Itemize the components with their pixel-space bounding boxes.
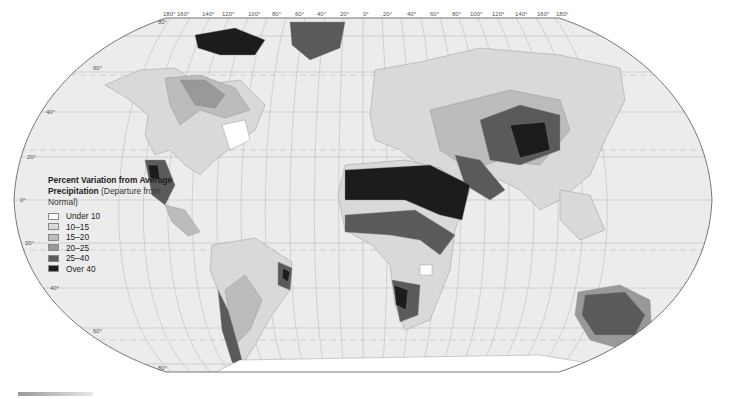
map-legend: Percent Variation from Average Precipita… — [48, 175, 183, 274]
svg-text:20°: 20° — [25, 240, 35, 246]
legend-item-under-10: Under 10 — [48, 211, 183, 222]
svg-text:20°: 20° — [27, 154, 37, 160]
swatch-20-25 — [48, 244, 59, 251]
decorative-gradient-bar — [18, 392, 93, 396]
svg-text:80°: 80° — [158, 365, 168, 371]
svg-text:20°: 20° — [383, 11, 393, 17]
svg-text:60°: 60° — [295, 11, 305, 17]
svg-text:180°: 180° — [556, 11, 569, 17]
legend-item-20-25: 20–25 — [48, 243, 183, 254]
legend-title: Percent Variation from Average Precipita… — [48, 175, 183, 208]
svg-text:160°: 160° — [537, 11, 550, 17]
svg-text:140°: 140° — [515, 11, 528, 17]
svg-text:120°: 120° — [492, 11, 505, 17]
legend-item-25-40: 25–40 — [48, 253, 183, 264]
svg-text:40°: 40° — [407, 11, 417, 17]
legend-item-10-15: 10–15 — [48, 222, 183, 233]
svg-text:140°: 140° — [202, 11, 215, 17]
svg-text:20°: 20° — [340, 11, 350, 17]
swatch-under-10 — [48, 213, 59, 220]
swatch-25-40 — [48, 255, 59, 262]
svg-text:60°: 60° — [93, 65, 103, 71]
svg-text:40°: 40° — [317, 11, 327, 17]
svg-text:80°: 80° — [158, 19, 168, 25]
svg-text:0°: 0° — [20, 197, 26, 203]
svg-text:40°: 40° — [50, 285, 60, 291]
svg-text:160°: 160° — [177, 11, 190, 17]
legend-item-over-40: Over 40 — [48, 264, 183, 275]
svg-text:100°: 100° — [248, 11, 261, 17]
swatch-over-40 — [48, 265, 59, 272]
legend-item-15-20: 15–20 — [48, 232, 183, 243]
swatch-15-20 — [48, 234, 59, 241]
svg-text:180°: 180° — [163, 11, 176, 17]
svg-text:0°: 0° — [363, 11, 369, 17]
svg-text:60°: 60° — [430, 11, 440, 17]
svg-text:80°: 80° — [452, 11, 462, 17]
svg-text:100°: 100° — [470, 11, 483, 17]
svg-text:40°: 40° — [46, 109, 56, 115]
svg-text:80°: 80° — [272, 11, 282, 17]
longitude-labels: 180° 160° 140° 120° 100° 80° 60° 40° 20°… — [163, 11, 569, 17]
swatch-10-15 — [48, 223, 59, 230]
svg-text:60°: 60° — [93, 328, 103, 334]
svg-text:120°: 120° — [222, 11, 235, 17]
